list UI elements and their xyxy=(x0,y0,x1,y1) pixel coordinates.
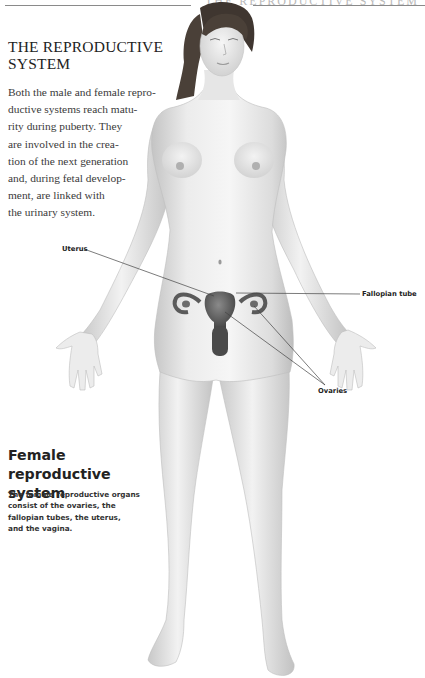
section-title: THE REPRODUCTIVE SYSTEM xyxy=(8,38,178,72)
heading-line: Female reproductive xyxy=(8,446,168,484)
intro-line: Both the male and female repro- xyxy=(8,84,188,101)
section-title-line: SYSTEM xyxy=(8,55,178,72)
intro-line: tion of the next generation xyxy=(8,153,188,170)
intro-line: ductive systems reach matu- xyxy=(8,101,188,118)
left-hand xyxy=(56,332,102,390)
ovaries-label: Ovaries xyxy=(318,387,347,395)
female-system-caption: The female reproductive organs consist o… xyxy=(8,489,168,535)
intro-line: and, during fetal develop- xyxy=(8,170,188,187)
intro-line: are involved in the crea- xyxy=(8,136,188,153)
navel xyxy=(218,259,221,264)
intro-line: rity during puberty. They xyxy=(8,118,188,135)
intro-line: the urinary system. xyxy=(8,204,188,221)
intro-paragraph: Both the male and female repro- ductive … xyxy=(8,84,188,222)
right-hand xyxy=(330,330,376,390)
fallopian-tube-label: Fallopian tube xyxy=(362,290,417,298)
caption-line: consist of the ovaries, the xyxy=(8,500,168,511)
caption-line: and the vagina. xyxy=(8,523,168,534)
caption-line: The female reproductive organs xyxy=(8,489,168,500)
uterus-label: Uterus xyxy=(62,245,88,253)
section-title-line: THE REPRODUCTIVE xyxy=(8,38,178,55)
intro-line: ment, are linked with xyxy=(8,187,188,204)
caption-line: fallopian tubes, the uterus, xyxy=(8,512,168,523)
right-leg xyxy=(218,350,294,675)
breast-right xyxy=(234,142,274,178)
